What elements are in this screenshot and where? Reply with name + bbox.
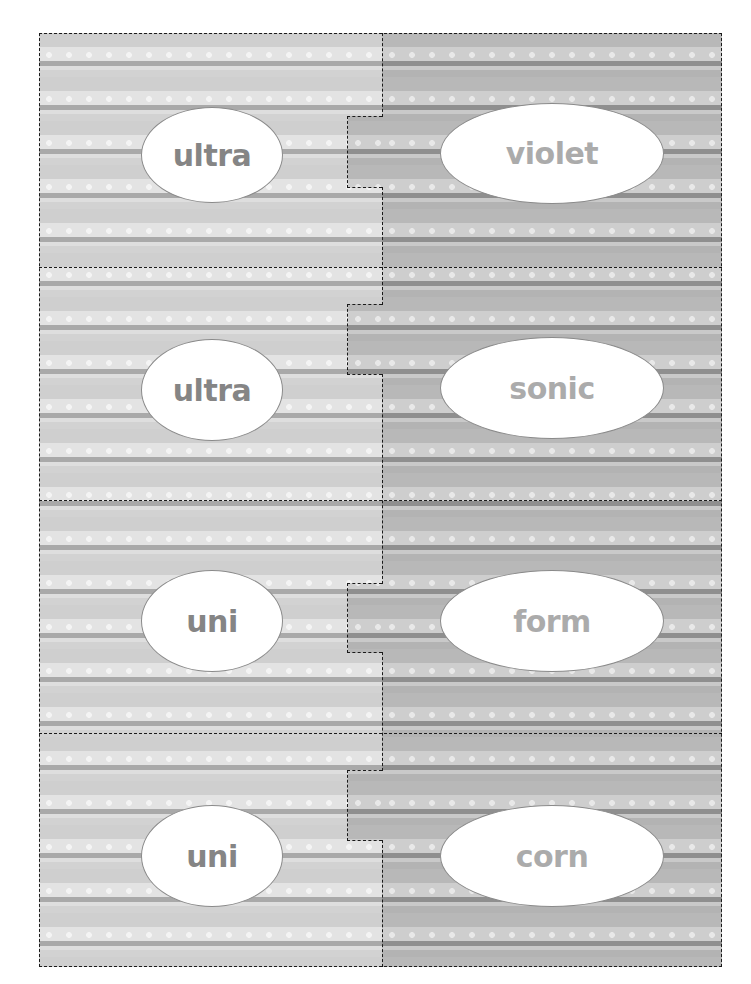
cut-line-vertical	[382, 187, 383, 305]
root-card-3[interactable]: form	[440, 570, 664, 672]
prefix-label: uni	[186, 604, 238, 639]
root-label: violet	[506, 136, 598, 171]
puzzle-card-sheet: ultra violet ultra sonic uni form uni co…	[39, 33, 722, 967]
prefix-label: ultra	[173, 373, 252, 408]
cut-line-tab-row-2	[347, 304, 382, 375]
cut-line-vertical	[382, 33, 383, 117]
cut-line-vertical	[382, 840, 383, 967]
cut-line-horizontal	[39, 500, 722, 501]
root-label: sonic	[509, 371, 594, 406]
root-card-1[interactable]: violet	[440, 103, 664, 204]
cut-line-tab-row-1	[347, 116, 382, 188]
root-card-2[interactable]: sonic	[440, 337, 664, 439]
prefix-label: uni	[186, 839, 238, 874]
cut-line-tab-row-4	[347, 770, 382, 841]
prefix-card-2[interactable]: ultra	[141, 339, 283, 441]
prefix-card-3[interactable]: uni	[141, 570, 283, 672]
prefix-label: ultra	[173, 138, 252, 173]
root-card-4[interactable]: corn	[440, 805, 664, 907]
cut-line-horizontal	[39, 267, 722, 268]
cut-line-vertical	[382, 652, 383, 771]
cut-line-horizontal	[39, 733, 722, 734]
prefix-card-1[interactable]: ultra	[141, 107, 283, 203]
root-label: form	[513, 604, 591, 639]
prefix-card-4[interactable]: uni	[141, 805, 283, 907]
cut-line-tab-row-3	[347, 583, 382, 653]
root-label: corn	[516, 839, 589, 874]
cut-line-vertical	[382, 374, 383, 584]
